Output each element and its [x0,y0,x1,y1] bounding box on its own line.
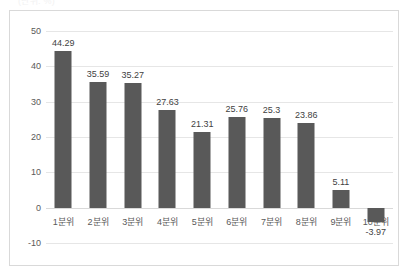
y-axis-label-20: 20 [31,132,41,142]
bar-value-label: 25.76 [226,104,249,114]
gridline--10 [46,243,393,244]
bar[interactable] [159,110,176,208]
bar-value-label: 21.31 [191,119,214,129]
bar[interactable] [263,118,280,207]
bar-group: 3분위35.27 [115,31,150,243]
x-axis-label: 2분위 [88,215,109,228]
bar-group: 10분위-3.97 [358,31,393,243]
bar[interactable] [90,82,107,208]
bar-value-label: 25.3 [263,105,281,115]
y-axis-label-40: 40 [31,61,41,71]
bar-group: 7분위25.3 [254,31,289,243]
bar-group: 6분위25.76 [220,31,255,243]
bar-group: 4분위27.63 [150,31,185,243]
y-axis-label-30: 30 [31,97,41,107]
x-axis-label: 7분위 [261,215,282,228]
bar-value-label: 44.29 [52,38,75,48]
x-axis-label: 8분위 [296,215,317,228]
bar-value-label: 35.59 [87,69,110,79]
bar-value-label: 5.11 [333,177,350,187]
bar-value-label: 23.86 [295,110,318,120]
top-caption-strip: (단위: %) [0,0,409,9]
bar[interactable] [332,190,349,208]
x-axis-label: 9분위 [330,215,351,228]
bar[interactable] [194,132,211,207]
bar[interactable] [228,117,245,208]
bars-layer: 1분위44.292분위35.593분위35.274분위27.635분위21.31… [46,31,393,243]
y-axis-label-10: 10 [31,167,41,177]
x-axis-label: 3분위 [122,215,143,228]
bar-group: 8분위23.86 [289,31,324,243]
y-axis-label--10: -10 [28,238,41,248]
bar-group: 5분위21.31 [185,31,220,243]
bar-group: 1분위44.29 [46,31,81,243]
bar[interactable] [298,123,315,207]
bar-value-label: -3.97 [365,227,386,237]
x-axis-label: 5분위 [192,215,213,228]
x-axis-label: 1분위 [53,215,74,228]
x-axis-label: 4분위 [157,215,178,228]
bar[interactable] [124,83,141,208]
bar-value-label: 35.27 [121,70,144,80]
x-axis-label: 6분위 [226,215,247,228]
top-caption-text: (단위: %) [18,0,55,7]
bar-group: 9분위5.11 [324,31,359,243]
bar-value-label: 27.63 [156,97,179,107]
chart-frame: 50403020100-10 1분위44.292분위35.593분위35.274… [9,10,399,266]
bar-group: 2분위35.59 [81,31,116,243]
bar-chart: (단위: %) 50403020100-10 1분위44.292분위35.593… [0,0,409,279]
y-axis-label-50: 50 [31,26,41,36]
y-axis-label-0: 0 [36,203,41,213]
bar[interactable] [55,51,72,207]
plot-area: 50403020100-10 1분위44.292분위35.593분위35.274… [46,31,393,243]
